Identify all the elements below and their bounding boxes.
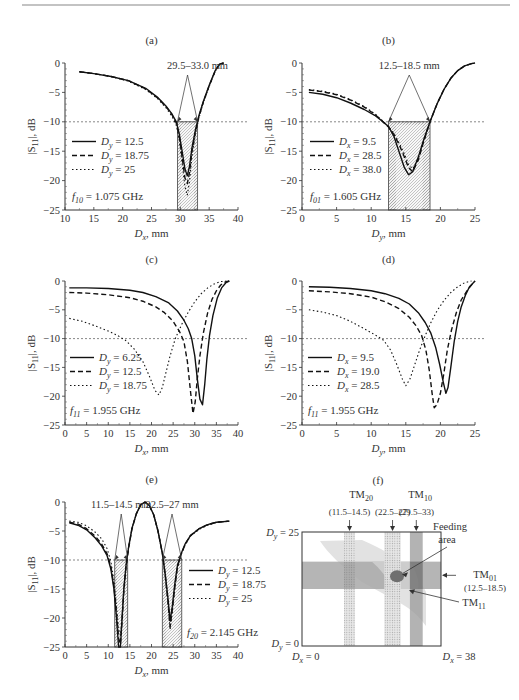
x-tick-label: 20 xyxy=(435,213,446,224)
band-tm20 xyxy=(384,532,400,646)
y-tick-label: −10 xyxy=(281,116,297,127)
x-tick-label: 0 xyxy=(62,650,67,661)
x-axis-title: Dy, mm xyxy=(370,442,406,457)
x-tick-label: 10 xyxy=(366,213,377,224)
chart-panel-b: (b)0−5−10−15−20−250510152025Dy, mm|S11|,… xyxy=(262,34,485,242)
series-line-dotted xyxy=(309,281,472,386)
x-tick-label: 0 xyxy=(299,428,304,439)
x-tick-label: 25 xyxy=(168,650,179,661)
legend-entry: Dy = 18.75 xyxy=(217,578,266,593)
chart-panel-a: (a)0−5−10−15−20−2510152025303540Dx, mm|S… xyxy=(25,34,248,242)
y-tick-label: −25 xyxy=(281,205,297,216)
x-axis-title: Dx, mm xyxy=(133,442,169,457)
y-tick-label: −5 xyxy=(49,526,60,537)
panel-label: (b) xyxy=(382,34,395,47)
y-tick-label: −15 xyxy=(281,362,297,373)
arrow-down-icon xyxy=(414,526,419,531)
y-tick-label: 0 xyxy=(55,276,60,287)
y-axis-title: |S11|, dB xyxy=(262,335,277,372)
x-tick-label: 20 xyxy=(146,428,157,439)
corner-label-dx-min: Dx = 0 xyxy=(291,651,320,665)
legend-entry: Dy = 12.5 xyxy=(100,135,144,150)
arrow-down-icon xyxy=(390,526,395,531)
legend-entry: Dy = 18.75 xyxy=(100,149,149,164)
y-tick-label: −5 xyxy=(286,304,297,315)
x-tick-label: 40 xyxy=(233,213,244,224)
band-range-label: 22.5–27 mm xyxy=(145,499,198,510)
x-tick-label: 30 xyxy=(190,650,201,661)
corner-label-dx-max: Dx = 38 xyxy=(442,651,476,665)
x-tick-label: 15 xyxy=(125,650,136,661)
x-axis-title: Dy, mm xyxy=(370,227,406,242)
x-tick-label: 5 xyxy=(334,213,339,224)
tm11-label: TM11 xyxy=(462,597,485,611)
band-range-label: 11.5–14.5 mm xyxy=(91,499,152,510)
legend-entry: Dy = 12.5 xyxy=(217,564,261,579)
y-tick-label: −25 xyxy=(44,205,60,216)
x-tick-label: 35 xyxy=(204,213,215,224)
x-tick-label: 40 xyxy=(233,428,244,439)
panel-label: (c) xyxy=(145,253,158,266)
panel-label: (e) xyxy=(145,473,158,486)
y-axis-title: |S11|, dB xyxy=(25,556,40,593)
y-tick-label: −25 xyxy=(281,420,297,431)
panel-label: (d) xyxy=(382,253,395,266)
y-tick-label: −5 xyxy=(49,87,60,98)
tm01-range-label: (12.5–18.5) xyxy=(464,583,506,593)
x-tick-label: 15 xyxy=(125,428,136,439)
chart-panel-f: (f)(11.5–14.5)(22.5–27)(29.5–33)TM20TM10… xyxy=(265,474,506,665)
x-tick-label: 5 xyxy=(84,650,89,661)
series-line-dashed xyxy=(69,502,229,644)
legend-entry: Dx = 38.0 xyxy=(338,163,382,178)
feeding-area-label: area xyxy=(438,534,456,545)
x-tick-label: 25 xyxy=(470,428,481,439)
corner-label-dy-min: Dy = 0 xyxy=(270,638,299,652)
y-tick-label: −10 xyxy=(44,555,60,566)
y-tick-label: 0 xyxy=(292,276,297,287)
x-axis-title: Dx, mm xyxy=(133,227,169,242)
series-line-solid xyxy=(69,281,229,405)
legend-entry: Dy = 25 xyxy=(100,163,136,178)
x-tick-label: 30 xyxy=(190,428,201,439)
frequency-label: f11 = 1.955 GHz xyxy=(308,404,379,419)
legend-entry: Dx = 9.5 xyxy=(336,351,374,366)
legend-entry: Dx = 9.5 xyxy=(338,135,376,150)
x-tick-label: 5 xyxy=(334,428,339,439)
x-tick-label: 25 xyxy=(146,213,157,224)
x-tick-label: 15 xyxy=(401,213,412,224)
x-tick-label: 10 xyxy=(60,213,71,224)
y-tick-label: −25 xyxy=(44,642,60,653)
x-tick-label: 0 xyxy=(62,428,67,439)
series-line-dashed xyxy=(309,281,475,408)
legend-entry: Dx = 28.5 xyxy=(338,149,382,164)
y-tick-label: −20 xyxy=(44,613,60,624)
series-line-dotted xyxy=(69,502,229,635)
tm20-label: TM20 xyxy=(349,489,373,503)
x-tick-label: 15 xyxy=(401,428,412,439)
y-tick-label: −5 xyxy=(49,304,60,315)
x-tick-label: 0 xyxy=(299,213,304,224)
x-tick-label: 10 xyxy=(366,428,377,439)
frequency-label: f10 = 1.075 GHz xyxy=(72,190,143,205)
x-tick-label: 25 xyxy=(470,213,481,224)
y-axis-title: |S11|, dB xyxy=(262,118,277,155)
x-tick-label: 10 xyxy=(103,428,114,439)
legend-entry: Dx = 19.0 xyxy=(336,365,380,380)
legend-entry: Dy = 25 xyxy=(217,592,253,607)
y-tick-label: 0 xyxy=(292,58,297,69)
band-range-label: (29.5–33) xyxy=(399,507,434,517)
frequency-label: f01 = 1.605 GHz xyxy=(310,190,381,205)
feeding-area-marker xyxy=(390,570,404,582)
x-tick-label: 35 xyxy=(211,650,222,661)
x-tick-label: 25 xyxy=(168,428,179,439)
panel-label: (f) xyxy=(373,474,384,487)
corner-label-dy-max: Dy = 25 xyxy=(265,527,299,541)
chart-panel-c: (c)0−5−10−15−20−250510152025303540Dx, mm… xyxy=(25,253,248,457)
y-tick-label: −15 xyxy=(44,584,60,595)
legend-entry: Dy = 18.75 xyxy=(98,379,147,394)
y-tick-label: −10 xyxy=(44,116,60,127)
y-tick-label: 0 xyxy=(55,497,60,508)
y-tick-label: −15 xyxy=(44,362,60,373)
chart-panel-d: (d)0−5−10−15−20−250510152025Dy, mm|S11|,… xyxy=(262,253,485,457)
y-tick-label: 0 xyxy=(55,58,60,69)
